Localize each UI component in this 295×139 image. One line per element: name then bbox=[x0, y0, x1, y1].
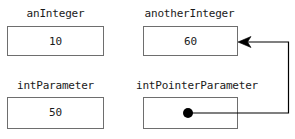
variable-label-intPointerParameter: intPointerParameter bbox=[136, 80, 243, 92]
variable-label-anotherInteger: anotherInteger bbox=[141, 8, 238, 20]
variable-value-anInteger: 10 bbox=[7, 36, 104, 48]
variable-label-intParameter: intParameter bbox=[7, 80, 104, 92]
variable-value-anotherInteger: 60 bbox=[143, 36, 238, 48]
memory-diagram: anInteger 10 anotherInteger 60 intParame… bbox=[0, 0, 295, 139]
pointer-origin-dot-icon bbox=[183, 108, 193, 118]
variable-value-intParameter: 50 bbox=[7, 107, 104, 119]
left-arrow-icon bbox=[238, 37, 251, 48]
variable-label-anInteger: anInteger bbox=[7, 8, 104, 20]
